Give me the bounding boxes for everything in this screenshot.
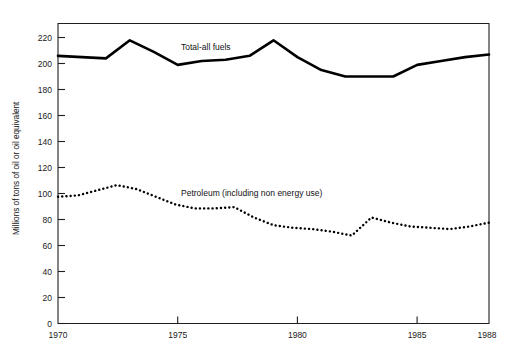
y-axis-title: Millions of tons of oil or oil equivalen… [12,101,21,235]
plot-frame [58,24,489,324]
y-axis-tick-labels: 0 20 40 60 80 100 120 140 160 180 200 22… [38,33,52,329]
y-tick-label-80: 80 [43,215,53,225]
x-tick-label-1975: 1975 [168,330,187,340]
y-tick-label-180: 180 [38,85,52,95]
x-axis-ticks [178,317,417,324]
y-tick-label-140: 140 [38,137,52,147]
x-tick-label-1980: 1980 [288,330,307,340]
y-tick-label-100: 100 [38,189,52,199]
y-axis-ticks [58,38,65,324]
series-annotation-petroleum: Petroleum (including non energy use) [181,188,322,198]
series-annotation-total: Total-all fuels [181,42,231,52]
x-axis-tick-labels: 1970 1975 1980 1985 1988 [49,330,497,340]
y-tick-label-0: 0 [47,319,52,329]
y-tick-label-20: 20 [43,293,53,303]
x-tick-label-1970: 1970 [49,330,68,340]
y-tick-label-40: 40 [43,267,53,277]
line-chart: 0 20 40 60 80 100 120 140 160 180 200 22… [0,0,509,360]
y-tick-label-160: 160 [38,111,52,121]
x-tick-label-1985: 1985 [408,330,427,340]
series-line-total-all-fuels [58,40,489,76]
y-tick-label-220: 220 [38,33,52,43]
y-tick-label-120: 120 [38,163,52,173]
chart-figure: 0 20 40 60 80 100 120 140 160 180 200 22… [0,0,509,360]
y-tick-label-200: 200 [38,59,52,69]
y-tick-label-60: 60 [43,241,53,251]
x-tick-label-1988: 1988 [478,330,497,340]
